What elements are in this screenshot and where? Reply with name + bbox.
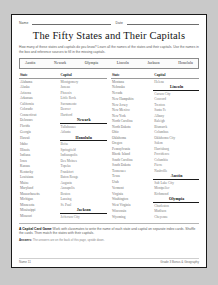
name-input-line[interactable] <box>32 20 111 25</box>
date-input-line[interactable] <box>127 20 199 25</box>
word-bank-item[interactable]: Lincoln <box>117 61 129 65</box>
states-table: State Capital AlabamaMontgomeryAlaskaJun… <box>19 73 199 220</box>
answers-text: The answers are on the back of this page… <box>33 238 105 242</box>
capital-cell[interactable]: Cheyenne <box>153 214 199 220</box>
name-label: Name <box>19 21 28 25</box>
activity-heading: A Capital Card Game <box>19 227 52 231</box>
table-left-column: State Capital AlabamaMontgomeryAlaskaJun… <box>19 73 107 220</box>
worksheet-page: Name Date The Fifty States and Their Cap… <box>11 14 207 268</box>
word-bank-item[interactable]: Olympia <box>85 61 99 65</box>
instructions-text: How many of these states and capitals do… <box>19 45 199 54</box>
footer-credit: Grade 3 Bonus & Geography <box>160 260 199 264</box>
word-bank: Austin Newark Olympia Lincoln Jackson Ho… <box>19 58 199 68</box>
page-footer: Name 11 Grade 3 Bonus & Geography <box>19 258 199 265</box>
name-date-row: Name Date <box>19 20 199 25</box>
state-cell: Wyoming <box>111 214 153 220</box>
word-bank-item[interactable]: Newark <box>54 61 66 65</box>
table-row: WyomingCheyenne <box>111 214 199 220</box>
activity-section: A Capital Card Game Work with classmates… <box>19 223 199 243</box>
word-bank-item[interactable]: Honolulu <box>178 61 193 65</box>
footer-page-number: Name 11 <box>19 260 31 264</box>
answers-note: Answers: The answers are on the back of … <box>19 238 199 243</box>
table-right-column: State Capital MontanaHelenaNebraskaLinco… <box>111 73 199 220</box>
table-row: MissouriJefferson City <box>19 213 107 219</box>
table-body-right: MontanaHelenaNebraskaLincolnNevadaCarson… <box>111 78 199 219</box>
word-bank-item[interactable]: Jackson <box>147 61 159 65</box>
state-cell: Missouri <box>19 213 60 219</box>
page-title: The Fifty States and Their Capitals <box>19 30 199 41</box>
answers-label: Answers: <box>19 238 32 242</box>
capital-cell[interactable]: Jefferson City <box>60 213 107 219</box>
table-body-left: AlabamaMontgomeryAlaskaJuneauArizonaPhoe… <box>19 78 107 219</box>
date-label: Date <box>115 21 123 25</box>
word-bank-item[interactable]: Austin <box>25 61 35 65</box>
